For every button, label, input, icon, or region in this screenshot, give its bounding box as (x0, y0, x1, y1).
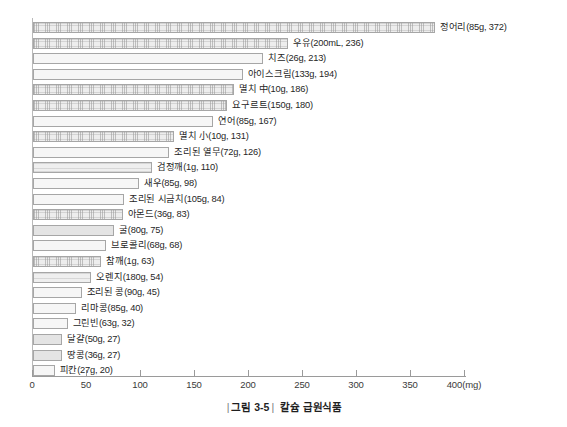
bar-value-label: 검정깨(1g, 110) (157, 161, 218, 173)
x-tick-mark (194, 370, 195, 376)
x-tick-label: 200 (240, 379, 256, 390)
bar (33, 318, 68, 329)
bar (33, 209, 123, 220)
bar (33, 240, 106, 251)
bar (33, 162, 152, 173)
bar-value-label: 요구르트(150g, 180) (232, 99, 313, 111)
bar-value-label: 새우(85g, 98) (144, 177, 197, 189)
bar-value-label: 치즈(26g, 213) (268, 52, 326, 64)
x-tick-mark (248, 370, 249, 376)
bar-value-label: 참깨(1g, 63) (106, 255, 154, 267)
x-tick-label: 350 (402, 379, 418, 390)
figure-caption: |그림 3-5|칼슘 급원식품 (0, 399, 567, 414)
bar (33, 116, 213, 127)
caption-title: 칼슘 급원식품 (280, 401, 342, 413)
bar (33, 100, 227, 111)
bar-value-label: 땅콩(36g, 27) (67, 349, 120, 361)
x-tick-label: 50 (81, 379, 91, 390)
x-tick-label: 250 (294, 379, 310, 390)
x-tick-mark (410, 370, 411, 376)
bar-value-label: 정어리(85g, 372) (440, 21, 507, 33)
bar-value-label: 조리된 시금치(105g, 84) (129, 193, 225, 205)
x-tick-label: 400(mg) (447, 379, 482, 390)
bar (33, 225, 114, 236)
bar-value-label: 달걀(50g, 27) (67, 333, 120, 345)
bar-value-label: 리마콩(85g, 40) (81, 302, 143, 314)
bar (33, 303, 76, 314)
x-tick-mark (356, 370, 357, 376)
bar (33, 147, 169, 158)
bar-value-label: 브로콜리(68g, 68) (111, 239, 182, 251)
x-tick-mark (302, 370, 303, 376)
bar-value-label: 멸치 小(10g, 131) (179, 130, 248, 142)
caption-right-rule: | (269, 401, 276, 413)
bar (33, 194, 124, 205)
bar-value-label: 조리된 열무(72g, 126) (174, 146, 261, 158)
bar (33, 256, 101, 267)
bar-value-label: 그린빈(63g, 32) (73, 317, 135, 329)
x-tick-label: 300 (348, 379, 364, 390)
bar (33, 272, 91, 283)
x-tick-label: 150 (186, 379, 202, 390)
bar-value-label: 조리된 콩(90g, 45) (87, 286, 160, 298)
caption-figure-number: 그림 3-5 (231, 401, 269, 413)
bar-value-label: 우유(200mL, 236) (293, 37, 364, 49)
bar-value-label: 오렌지(180g, 54) (96, 271, 163, 283)
bar (33, 22, 435, 33)
bar (33, 287, 82, 298)
x-tick-label: 0 (29, 379, 34, 390)
figure-calcium-food-sources: 050100150200250300350400(mg) 정어리(85g, 37… (0, 0, 567, 427)
bar (33, 38, 288, 49)
bar-value-label: 아이스크림(133g, 194) (248, 68, 337, 80)
bar (33, 350, 62, 361)
bar (33, 84, 234, 95)
bar-value-label: 연어(85g, 167) (218, 115, 276, 127)
x-tick-mark (140, 370, 141, 376)
bar-value-label: 멸치 中(10g, 186) (239, 83, 308, 95)
bar-value-label: 아몬드(36g, 83) (128, 208, 190, 220)
x-tick-mark (464, 370, 465, 376)
bar (33, 178, 139, 189)
bar (33, 131, 174, 142)
bar-chart-plot-area: 050100150200250300350400(mg) 정어리(85g, 37… (0, 0, 567, 395)
bar (33, 365, 55, 376)
bar (33, 69, 243, 80)
x-tick-label: 100 (132, 379, 148, 390)
bar (33, 334, 62, 345)
bar-value-label: 피칸(27g, 20) (60, 364, 113, 376)
bar (33, 53, 263, 64)
bar-value-label: 굴(80g, 75) (119, 224, 163, 236)
